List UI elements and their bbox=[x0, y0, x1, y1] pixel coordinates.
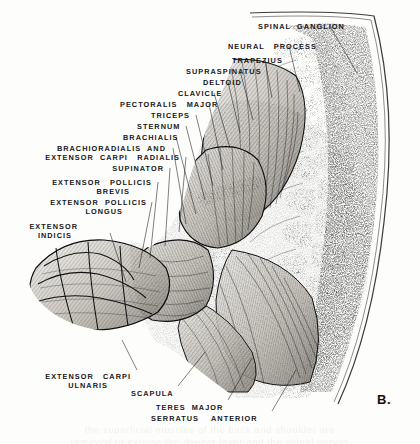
label-deltoid: DELTOID bbox=[203, 78, 242, 87]
label-extensor-carpi-ulnaris-2: ULNARIS bbox=[68, 381, 108, 390]
label-serratus-anterior: SERRATUS ANTERIOR bbox=[151, 414, 258, 423]
label-spinal-ganglion: SPINAL GANGLION bbox=[258, 22, 345, 31]
label-teres-major: TERES MAJOR bbox=[156, 403, 223, 412]
label-supraspinatus: SUPRASPINATUS bbox=[186, 67, 262, 76]
label-extensor-pollicis-brevis-1: EXTENSOR POLLICIS bbox=[52, 178, 152, 187]
label-triceps: TRICEPS bbox=[151, 111, 190, 120]
label-extensor-indicis-1: EXTENSOR bbox=[29, 222, 78, 231]
label-supinator: SUPINATOR bbox=[112, 164, 164, 173]
label-sternum: STERNUM bbox=[137, 122, 180, 131]
label-extensor-carpi-radialis: EXTENSOR CARPI RADIALIS bbox=[45, 153, 180, 162]
label-scapula: SCAPULA bbox=[131, 389, 174, 398]
plate-id: B. bbox=[377, 392, 391, 407]
label-extensor-pollicis-brevis-2: BREVIS bbox=[97, 187, 130, 196]
label-extensor-carpi-ulnaris-1: EXTENSOR CARPI bbox=[45, 372, 131, 381]
label-neural-process: NEURAL PROCESS bbox=[228, 42, 317, 51]
label-extensor-indicis-2: INDICIS bbox=[38, 231, 72, 240]
label-extensor-pollicis-longus-1: EXTENSOR POLLICIS bbox=[50, 198, 147, 207]
anatomical-plate: the superficial muscles of the back and … bbox=[0, 0, 420, 444]
label-brachialis: BRACHIALIS bbox=[123, 133, 179, 142]
label-brachioradialis: BRACHIORADIALIS AND bbox=[57, 144, 166, 153]
label-trapezius: TRAPEZIUS bbox=[232, 56, 283, 65]
label-pectoralis-major: PECTORALIS MAJOR bbox=[120, 100, 218, 109]
label-extensor-pollicis-longus-2: LONGUS bbox=[85, 207, 123, 216]
label-clavicle: CLAVICLE bbox=[178, 89, 222, 98]
leader-extensor-carpi-ulnaris bbox=[122, 340, 137, 370]
